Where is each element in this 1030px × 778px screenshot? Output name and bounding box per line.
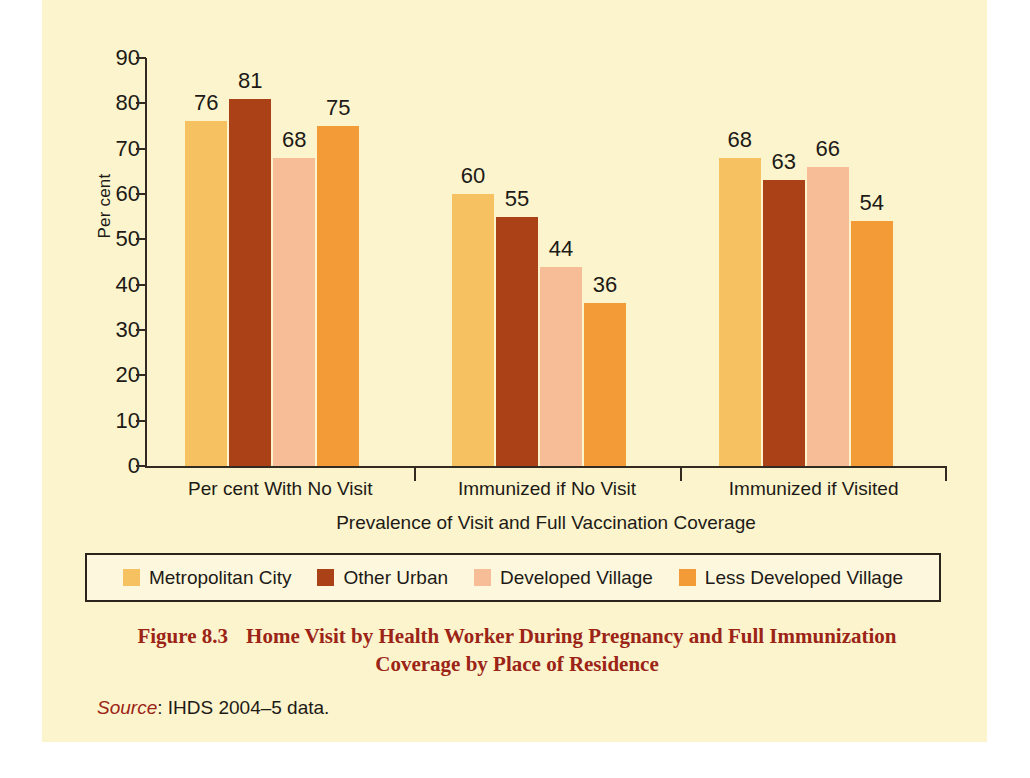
legend-item-label: Less Developed Village bbox=[705, 567, 903, 589]
bar bbox=[273, 158, 315, 466]
legend-swatch-icon bbox=[474, 569, 491, 586]
y-axis-tick-mark bbox=[136, 57, 146, 59]
figure-caption-line2: Coverage by Place of Residence bbox=[375, 652, 658, 676]
y-axis-tick-mark bbox=[136, 102, 146, 104]
bar-value-label: 75 bbox=[303, 97, 373, 119]
legend-item-label: Other Urban bbox=[343, 567, 448, 589]
bar-value-label: 36 bbox=[570, 274, 640, 296]
figure-caption-number: Figure 8.3 bbox=[137, 624, 228, 648]
figure-source: Source: IHDS 2004–5 data. bbox=[97, 697, 329, 719]
legend-swatch-icon bbox=[317, 569, 334, 586]
source-text: IHDS 2004–5 data. bbox=[168, 697, 330, 718]
x-axis-title: Prevalence of Visit and Full Vaccination… bbox=[145, 512, 947, 534]
bar-value-label: 81 bbox=[215, 70, 285, 92]
bar bbox=[185, 121, 227, 466]
bar-value-label: 68 bbox=[705, 129, 775, 151]
y-axis-tick-mark bbox=[136, 238, 146, 240]
y-axis-tick-mark bbox=[136, 465, 146, 467]
legend-item-label: Developed Village bbox=[500, 567, 653, 589]
legend-swatch-icon bbox=[123, 569, 140, 586]
bar bbox=[317, 126, 359, 466]
bars-layer: 768168756055443668636654 bbox=[42, 0, 987, 500]
bar bbox=[540, 267, 582, 466]
legend-item[interactable]: Other Urban bbox=[317, 567, 448, 589]
y-axis-tick-mark bbox=[136, 329, 146, 331]
bar-value-label: 66 bbox=[793, 138, 863, 160]
x-axis-category-label: Immunized if Visited bbox=[680, 478, 947, 500]
bar bbox=[452, 194, 494, 466]
chart-legend: Metropolitan CityOther UrbanDeveloped Vi… bbox=[85, 553, 941, 602]
bar-value-label: 55 bbox=[482, 188, 552, 210]
figure-caption: Figure 8.3Home Visit by Health Worker Du… bbox=[102, 622, 932, 679]
source-separator: : bbox=[157, 697, 168, 718]
x-axis-category-label: Immunized if No Visit bbox=[414, 478, 681, 500]
x-axis-end-tick bbox=[945, 468, 947, 481]
legend-item-label: Metropolitan City bbox=[149, 567, 292, 589]
legend-item[interactable]: Developed Village bbox=[474, 567, 653, 589]
legend-swatch-icon bbox=[679, 569, 696, 586]
y-axis-tick-mark bbox=[136, 374, 146, 376]
bar bbox=[229, 99, 271, 466]
figure-caption-line1: Home Visit by Health Worker During Pregn… bbox=[246, 624, 896, 648]
bar-value-label: 60 bbox=[438, 165, 508, 187]
y-axis-tick-mark bbox=[136, 193, 146, 195]
bar bbox=[584, 303, 626, 466]
y-axis-tick-mark bbox=[136, 284, 146, 286]
bar bbox=[851, 221, 893, 466]
y-axis-tick-mark bbox=[136, 420, 146, 422]
legend-item[interactable]: Less Developed Village bbox=[679, 567, 903, 589]
bar bbox=[763, 180, 805, 466]
x-axis-group-separator bbox=[680, 468, 682, 481]
source-label: Source bbox=[97, 697, 157, 718]
y-axis-tick-mark bbox=[136, 148, 146, 150]
bar-value-label: 44 bbox=[526, 238, 596, 260]
x-axis-group-separator bbox=[414, 468, 416, 481]
chart-plot-area: Per cent 9080706050403020100 76816875605… bbox=[42, 0, 987, 500]
x-axis-category-label: Per cent With No Visit bbox=[147, 478, 414, 500]
figure-panel: Per cent 9080706050403020100 76816875605… bbox=[42, 0, 987, 742]
bar-value-label: 54 bbox=[837, 192, 907, 214]
bar bbox=[719, 158, 761, 466]
legend-item[interactable]: Metropolitan City bbox=[123, 567, 292, 589]
